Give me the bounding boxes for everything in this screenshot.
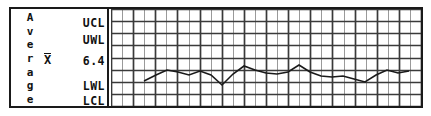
axis-letter-v: v <box>27 27 34 37</box>
axis-letter-e1: e <box>27 40 34 50</box>
plot-svg <box>111 9 421 106</box>
label-uwl: UWL <box>83 33 105 47</box>
grid-major-vertical-lines <box>112 9 422 106</box>
label-lcl: LCL <box>83 94 105 108</box>
x-bar-symbol: X <box>44 53 51 67</box>
control-limit-labels: UCL UWL 6.4 LWL LCL <box>63 9 105 106</box>
axis-letter-a1: A <box>27 13 34 23</box>
x-bar-glyph: X <box>44 53 51 66</box>
plot-area <box>111 9 421 106</box>
label-lwl: LWL <box>83 79 105 93</box>
chart-label-panel: A v e r a g e X UCL UWL 6.4 LWL LCL <box>11 9 109 106</box>
axis-letter-e2: e <box>27 95 34 105</box>
label-center-line-value: 6.4 <box>83 54 105 68</box>
xbar-control-chart: A v e r a g e X UCL UWL 6.4 LWL LCL <box>0 0 431 116</box>
label-ucl: UCL <box>83 16 105 30</box>
chart-frame: A v e r a g e X UCL UWL 6.4 LWL LCL <box>9 7 423 108</box>
axis-letter-r: r <box>27 54 34 64</box>
y-axis-label-average: A v e r a g e <box>20 13 40 105</box>
axis-letter-g: g <box>27 81 34 91</box>
axis-letter-a2: a <box>27 68 34 78</box>
